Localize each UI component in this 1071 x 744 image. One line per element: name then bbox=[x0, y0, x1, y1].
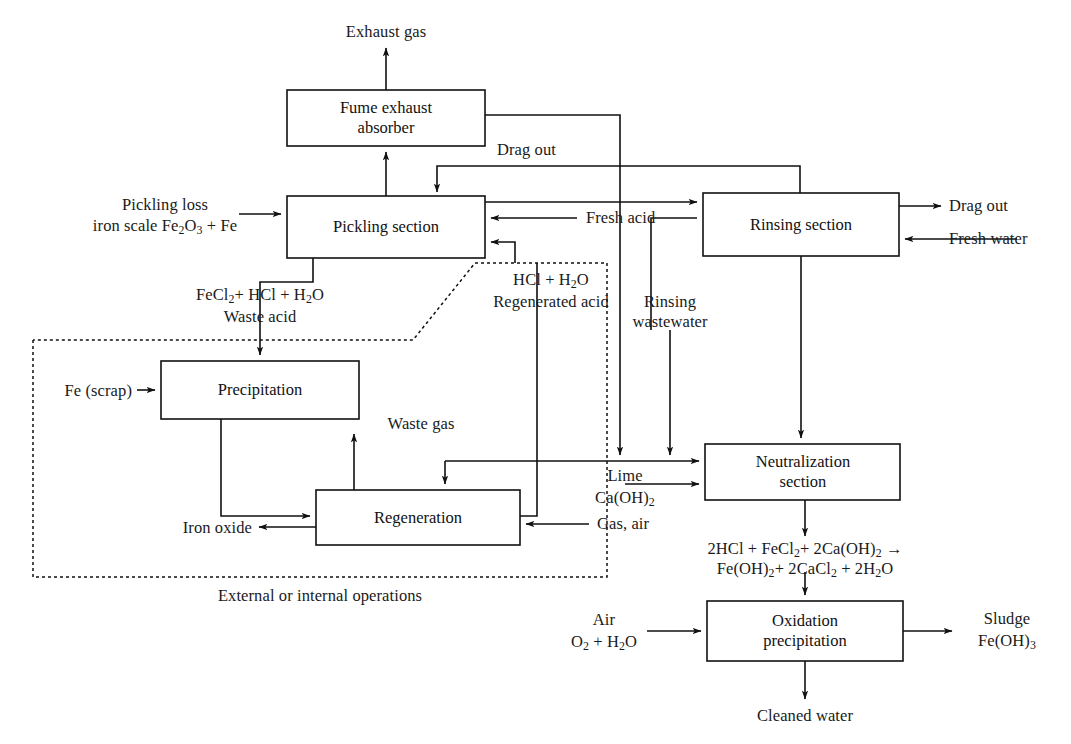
neq2-pre: Fe(OH) bbox=[717, 559, 769, 578]
neq1-post: → bbox=[882, 539, 903, 558]
label-fresh-water: Fresh water bbox=[949, 229, 1028, 248]
box-label-oxidation-precipitation: Oxidation precipitation bbox=[763, 611, 846, 651]
fume-absorber-line1: Fume exhaust bbox=[340, 98, 432, 117]
label-iron-scale: iron scale Fe2O3 + Fe bbox=[93, 216, 237, 240]
flow-regenerated-acid-in bbox=[491, 242, 515, 263]
lime-formula-sub1: 2 bbox=[649, 495, 655, 509]
neutralization-line1: Neutralization bbox=[756, 452, 850, 471]
neutralization-line2: section bbox=[780, 472, 827, 491]
iron-scale-mid: O bbox=[185, 216, 197, 235]
waste-acid-post: O bbox=[312, 285, 324, 304]
lime-formula-pre: Ca(OH) bbox=[595, 488, 649, 507]
box-label-rinsing-section: Rinsing section bbox=[750, 215, 852, 235]
label-gas-air: Gas, air bbox=[597, 514, 649, 533]
label-waste-acid: Waste acid bbox=[224, 307, 297, 326]
oxidation-line2: precipitation bbox=[763, 631, 846, 650]
label-exhaust-gas: Exhaust gas bbox=[346, 22, 426, 41]
label-sludge: Sludge bbox=[984, 609, 1030, 628]
process-flow-diagram: Fume exhaust absorber Pickling section R… bbox=[0, 0, 1071, 744]
waste-acid-pre: FeCl bbox=[196, 285, 229, 304]
label-air-formula: O2 + H2O bbox=[571, 632, 637, 656]
label-drag-out-top: Drag out bbox=[497, 140, 556, 159]
fume-absorber-line2: absorber bbox=[358, 118, 415, 137]
iron-scale-pre: iron scale Fe bbox=[93, 216, 179, 235]
iron-scale-post: + Fe bbox=[203, 216, 238, 235]
box-label-precipitation: Precipitation bbox=[218, 380, 302, 400]
regen-acid-post: O bbox=[577, 270, 589, 289]
label-drag-out-right: Drag out bbox=[949, 196, 1008, 215]
label-pickling-loss: Pickling loss bbox=[122, 195, 208, 214]
neq2-mid: + 2CaCl bbox=[775, 559, 831, 578]
label-air: Air bbox=[593, 610, 615, 629]
neq2-post2: + 2H bbox=[837, 559, 875, 578]
label-lime-formula: Ca(OH)2 bbox=[595, 488, 655, 512]
label-external-internal-operations: External or internal operations bbox=[218, 586, 422, 605]
neq2-end: O bbox=[881, 559, 893, 578]
flow-precipitation-to-regeneration bbox=[221, 419, 310, 516]
label-waste-acid-formula: FeCl2+ HCl + H2O bbox=[196, 285, 324, 309]
neq1-pre: 2HCl + FeCl bbox=[707, 539, 794, 558]
air-formula-pre: O bbox=[571, 632, 583, 651]
air-formula-post: O bbox=[625, 632, 637, 651]
label-sludge-formula: Fe(OH)3 bbox=[978, 631, 1036, 655]
sludge-formula-sub1: 3 bbox=[1030, 638, 1036, 652]
box-label-neutralization-section: Neutralization section bbox=[756, 452, 850, 492]
neq1-mid: + 2Ca(OH) bbox=[800, 539, 876, 558]
label-regenerated-acid: Regenerated acid bbox=[493, 292, 609, 311]
box-label-fume-exhaust-absorber: Fume exhaust absorber bbox=[340, 98, 432, 138]
oxidation-line1: Oxidation bbox=[772, 611, 838, 630]
sludge-formula-pre: Fe(OH) bbox=[978, 631, 1030, 650]
label-rinsing-wastewater-line2: wastewater bbox=[632, 312, 707, 331]
label-cleaned-water: Cleaned water bbox=[757, 706, 853, 725]
label-fresh-acid: Fresh acid bbox=[586, 208, 655, 227]
label-neutralization-equation-line2: Fe(OH)2+ 2CaCl2 + 2H2O bbox=[717, 559, 894, 583]
label-iron-oxide: Iron oxide bbox=[183, 518, 252, 537]
label-waste-gas: Waste gas bbox=[388, 414, 455, 433]
box-label-pickling-section: Pickling section bbox=[333, 217, 439, 237]
air-formula-mid: + H bbox=[589, 632, 619, 651]
box-label-regeneration: Regeneration bbox=[374, 508, 462, 528]
flow-rinsing-dragout-to-pickling bbox=[437, 166, 800, 193]
connector-layer bbox=[0, 0, 1071, 744]
label-regenerated-acid-formula: HCl + H2O bbox=[513, 270, 589, 294]
label-lime: Lime bbox=[607, 466, 642, 485]
label-rinsing-wastewater-line1: Rinsing bbox=[644, 292, 696, 311]
label-fe-scrap: Fe (scrap) bbox=[65, 381, 132, 400]
regen-acid-pre: HCl + H bbox=[513, 270, 571, 289]
waste-acid-mid: + HCl + H bbox=[235, 285, 306, 304]
